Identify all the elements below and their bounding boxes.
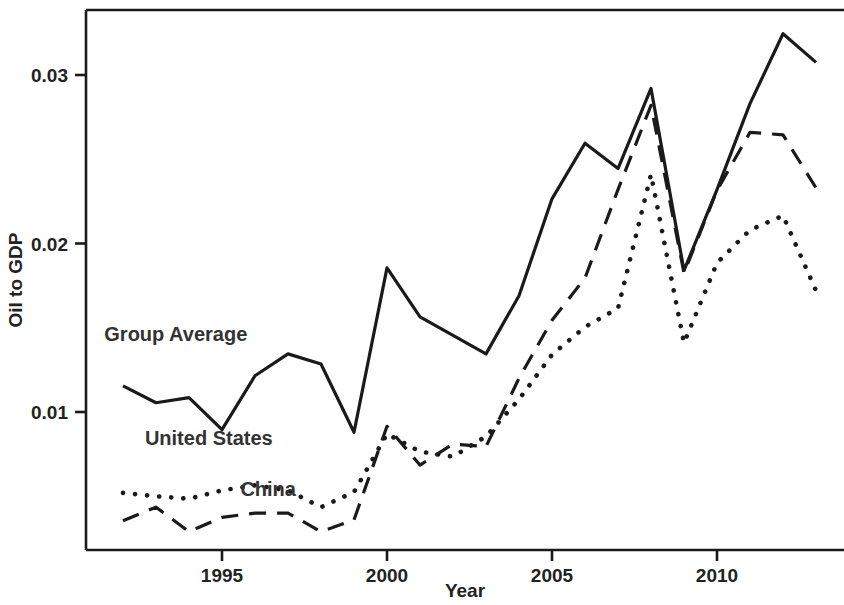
x-tick-label: 2010 — [696, 565, 738, 586]
x-tick-label: 2000 — [366, 565, 408, 586]
chart-figure: 0.010.020.03 1995200020052010 Group Aver… — [0, 0, 844, 605]
y-tick-label: 0.02 — [31, 234, 68, 255]
oil-to-gdp-line-chart: 0.010.020.03 1995200020052010 Group Aver… — [0, 0, 844, 605]
x-tick-label: 2005 — [531, 565, 574, 586]
y-axis-title: Oil to GDP — [5, 232, 26, 327]
series-label-china: China — [240, 478, 296, 500]
x-tick-label: 1995 — [201, 565, 244, 586]
series-label-united-states: United States — [145, 427, 273, 449]
chart-background — [0, 0, 844, 605]
series-label-group-average: Group Average — [104, 323, 247, 345]
x-axis-title: Year — [445, 580, 486, 601]
y-tick-label: 0.01 — [31, 402, 68, 423]
y-tick-label: 0.03 — [31, 65, 68, 86]
